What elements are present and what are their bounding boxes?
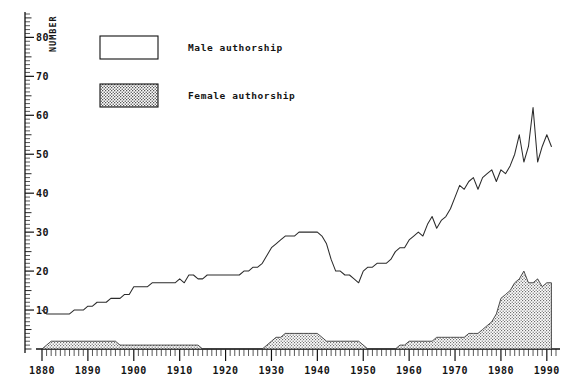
chart-svg: 1020304050607080 18801890190019101920193…	[0, 0, 573, 386]
legend-label-female: Female authorship	[188, 90, 295, 101]
x-axis-tick-label: 1880	[29, 365, 55, 376]
x-axis-tick-label: 1900	[121, 365, 147, 376]
x-axis-tick-label: 1940	[304, 365, 330, 376]
x-axis: 1880189019001910192019301940195019601970…	[29, 349, 560, 376]
x-axis-tick-label: 1950	[350, 365, 376, 376]
series-area-female-authorship	[42, 271, 551, 349]
y-axis-tick-label: 30	[36, 227, 49, 238]
y-axis-tick-label: 60	[36, 110, 49, 121]
y-axis-tick-label: 50	[36, 149, 49, 160]
chart-figure: 1020304050607080 18801890190019101920193…	[0, 0, 573, 386]
y-axis: 1020304050607080	[25, 12, 49, 353]
y-axis-tick-label: 40	[36, 188, 49, 199]
series-line-male-authorship	[42, 107, 551, 313]
y-axis-title: NUMBER	[48, 15, 58, 52]
x-axis-tick-label: 1990	[534, 365, 560, 376]
x-axis-tick-label: 1930	[258, 365, 284, 376]
legend-swatch-female	[100, 84, 158, 107]
x-axis-tick-label: 1910	[167, 365, 193, 376]
x-axis-tick-label: 1890	[75, 365, 101, 376]
legend-label-male: Male authorship	[188, 42, 283, 53]
x-axis-tick-label: 1980	[488, 365, 514, 376]
y-axis-tick-label: 20	[36, 266, 49, 277]
x-axis-tick-label: 1960	[396, 365, 422, 376]
legend-swatch-male	[100, 36, 158, 59]
x-axis-tick-label: 1970	[442, 365, 468, 376]
x-axis-tick-label: 1920	[213, 365, 239, 376]
series-plot-area	[42, 107, 551, 349]
y-axis-tick-label: 70	[36, 71, 49, 82]
chart-legend: Male authorshipFemale authorship	[100, 36, 295, 107]
